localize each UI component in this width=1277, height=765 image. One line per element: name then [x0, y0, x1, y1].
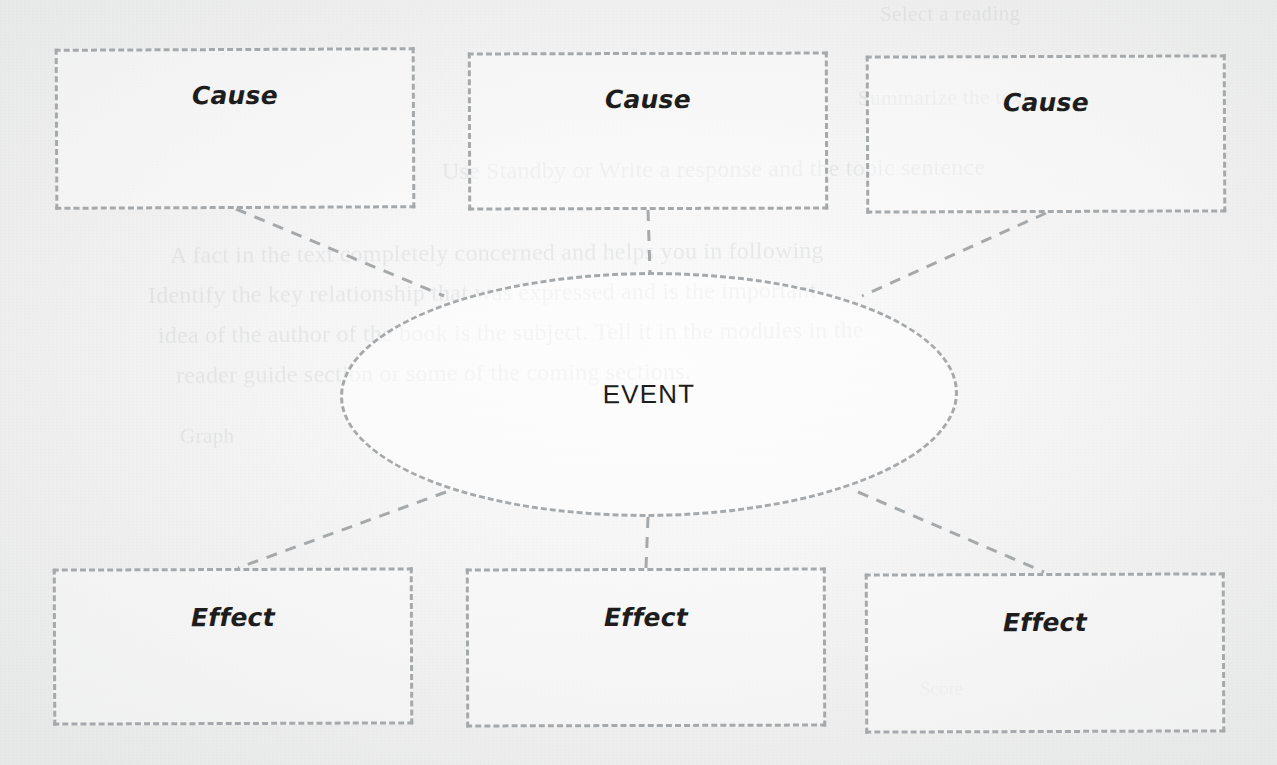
connector-cause2-to-event	[648, 210, 650, 272]
cause-box-3-label: Cause	[869, 87, 1223, 117]
bleed-line: Select a reading	[880, 1, 1021, 27]
effect-box-3-label: Effect	[868, 607, 1222, 637]
cause-box-2-label: Cause	[471, 85, 825, 115]
effect-box-3[interactable]: Effect	[865, 572, 1226, 733]
cause-box-2[interactable]: Cause	[468, 52, 828, 211]
connector-cause1-to-event	[236, 209, 444, 296]
bleed-line: A fact in the text completely concerned …	[170, 237, 824, 269]
effect-box-2-label: Effect	[469, 603, 823, 633]
connector-event-to-effect3	[858, 492, 1044, 572]
connector-event-to-effect1	[238, 492, 446, 568]
effect-box-1-label: Effect	[56, 602, 410, 632]
cause-box-1[interactable]: Cause	[55, 47, 416, 210]
effect-box-1[interactable]: Effect	[53, 567, 414, 725]
scanned-worksheet-page: Select a reading Summarize the text Use …	[0, 0, 1277, 765]
event-label: EVENT	[343, 377, 955, 412]
cause-box-1-label: Cause	[58, 80, 412, 111]
effect-box-2[interactable]: Effect	[466, 568, 826, 728]
event-ellipse[interactable]: EVENT	[339, 270, 959, 519]
cause-box-3[interactable]: Cause	[866, 54, 1227, 213]
connector-cause3-to-event	[862, 213, 1046, 296]
bleed-line: Graph	[180, 424, 235, 449]
connector-event-to-effect2	[646, 517, 648, 568]
